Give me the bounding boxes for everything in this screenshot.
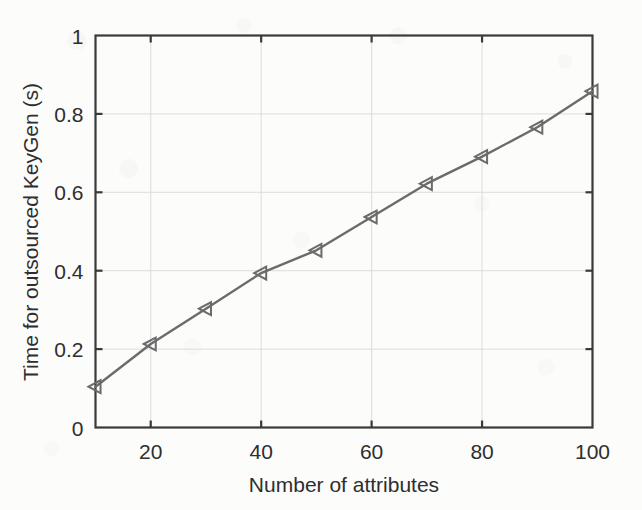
x-gridlines: [151, 36, 482, 428]
y-gridlines: [96, 114, 593, 349]
x-axis-ticks: [151, 36, 482, 428]
x-axis-tick-labels: 20406080100: [139, 440, 610, 463]
y-tick-label: 0.6: [54, 181, 83, 204]
y-tick-label: 1: [72, 25, 84, 48]
y-tick-label: 0: [72, 417, 84, 440]
x-tick-label: 20: [139, 440, 162, 463]
x-tick-label: 100: [575, 440, 610, 463]
axes-frame: [96, 36, 593, 428]
y-tick-label: 0.2: [54, 338, 83, 361]
data-markers: [89, 85, 598, 393]
y-tick-label: 0.8: [54, 103, 83, 126]
figure-canvas: 00.20.40.60.81 20406080100 Number of att…: [0, 0, 642, 510]
y-axis-tick-labels: 00.20.40.60.81: [54, 25, 84, 440]
data-line: [96, 91, 593, 387]
x-axis-title: Number of attributes: [249, 473, 439, 496]
x-tick-label: 80: [470, 440, 493, 463]
x-tick-label: 60: [360, 440, 383, 463]
y-axis-ticks: [96, 114, 593, 349]
x-tick-label: 40: [249, 440, 272, 463]
y-axis-title: Time for outsourced KeyGen (s): [19, 83, 42, 381]
chart-plot: 00.20.40.60.81 20406080100 Number of att…: [0, 0, 642, 510]
y-tick-label: 0.4: [54, 260, 84, 283]
